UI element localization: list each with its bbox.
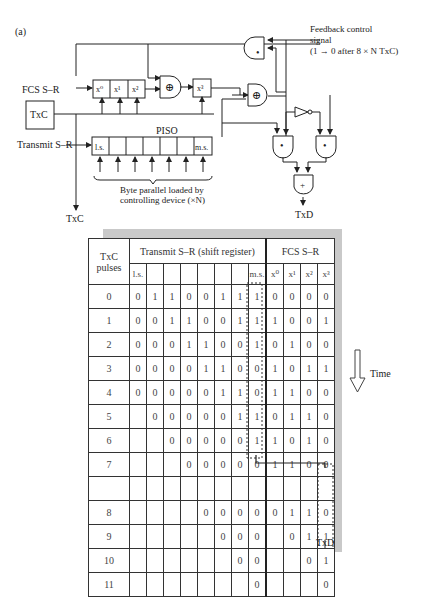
xor-gate-1: ⊕ (165, 81, 174, 93)
transmit-cell: 0 (215, 501, 232, 525)
and-gate-left: • (280, 140, 284, 151)
transmit-cell (147, 573, 164, 597)
fcs-cell (266, 477, 284, 501)
transmit-cell: 0 (198, 501, 215, 525)
pulse-cell: 3 (89, 357, 130, 381)
transmit-cell: 0 (249, 573, 267, 597)
transmit-cell (130, 453, 147, 477)
fcs-cell: 0 (301, 285, 318, 309)
table-row: 1001100111001 (89, 309, 335, 333)
transmit-cell: 0 (249, 381, 267, 405)
table-row: 4000001101100 (89, 381, 335, 405)
transmit-cell (147, 525, 164, 549)
brace (94, 176, 212, 184)
transmit-cell (164, 573, 181, 597)
transmit-cell (164, 477, 181, 501)
transmit-cell: 1 (232, 381, 249, 405)
transmit-cell (130, 525, 147, 549)
fcs-cell (284, 549, 301, 573)
brace-label-2: controlling device (×N) (120, 195, 205, 205)
transmit-cell: 1 (249, 309, 267, 333)
transmit-cell: 0 (181, 381, 198, 405)
transmit-cell (130, 501, 147, 525)
transmit-cell: 0 (249, 357, 267, 381)
transmit-cell (147, 477, 164, 501)
transmit-cell: 0 (130, 285, 147, 309)
table-row: 1100 (89, 573, 335, 597)
pulse-cell: 9 (89, 525, 130, 549)
transmit-cell: 0 (232, 549, 249, 573)
transmit-cell (164, 501, 181, 525)
fcs-cell: 0 (284, 357, 301, 381)
fcs-cell: 0 (318, 429, 335, 453)
table-row: 2000110010100 (89, 333, 335, 357)
transmit-sub-header (232, 264, 249, 285)
fcs-cell (284, 477, 301, 501)
transmit-cell: 0 (198, 429, 215, 453)
fcs-cell (266, 525, 284, 549)
transmit-cell (232, 573, 249, 597)
transmit-cell (130, 405, 147, 429)
transmit-cell: 0 (164, 381, 181, 405)
transmit-cell (164, 549, 181, 573)
transmit-cell: 0 (181, 405, 198, 429)
transmit-cell: 0 (147, 309, 164, 333)
transmit-cell (181, 477, 198, 501)
transmit-cell: 0 (164, 357, 181, 381)
transmit-cell: 0 (215, 405, 232, 429)
pulse-cell: 7 (89, 453, 130, 477)
fcs-cell: 1 (318, 357, 335, 381)
transmit-cell (198, 549, 215, 573)
transmit-sub-header (164, 264, 181, 285)
time-label: Time (370, 368, 391, 379)
transmit-cell: 1 (215, 381, 232, 405)
transmit-cell: 1 (147, 285, 164, 309)
fcs-cell: 0 (301, 453, 318, 477)
feedback-wire (76, 44, 148, 78)
table-row (89, 477, 335, 501)
table-row: 3000011001011 (89, 357, 335, 381)
transmit-cell (130, 549, 147, 573)
transmit-cell: 0 (181, 357, 198, 381)
fcs-cell (301, 477, 318, 501)
transmit-cell: 0 (232, 357, 249, 381)
transmit-cell: 0 (232, 501, 249, 525)
fcs-cell: 1 (284, 501, 301, 525)
shift-register-table: TxCpulsesTransmit S–R (shift register)FC… (88, 238, 335, 597)
fcs-cell (266, 573, 284, 597)
fcs-cell: 1 (266, 381, 284, 405)
transmit-sub-header: l.s. (130, 264, 147, 285)
transmit-cell: 1 (249, 285, 267, 309)
fcs-cell: 1 (266, 453, 284, 477)
transmit-cell: 0 (198, 405, 215, 429)
fcs-cell: 0 (318, 285, 335, 309)
fcs-cell: 1 (318, 549, 335, 573)
fcs-cell: 1 (301, 501, 318, 525)
fcs-sub-header: x⁰ (266, 264, 284, 285)
fcs-cell: 0 (301, 309, 318, 333)
transmit-cell: 1 (181, 333, 198, 357)
fcs-cell: 0 (318, 573, 335, 597)
feedback-label-2: signal (310, 35, 332, 45)
fcs-cell: 0 (301, 333, 318, 357)
fcs-cell: 1 (284, 453, 301, 477)
circuit-diagram: (a) FCS S–R x⁰ x¹ x² x³ ⊕ ⊕ • • • + TxC … (0, 0, 421, 236)
table-row: 500000110110 (89, 405, 335, 429)
transmit-cell (249, 477, 267, 501)
xor-gate-2: ⊕ (252, 89, 261, 101)
fcs-cell: 1 (284, 333, 301, 357)
table-row: 60000011010 (89, 429, 335, 453)
transmit-cell: 0 (164, 333, 181, 357)
transmit-cell: 0 (232, 525, 249, 549)
fcs-cell (318, 477, 335, 501)
transmit-cell: 0 (198, 453, 215, 477)
fcs-cell: 0 (266, 501, 284, 525)
figure-label: (a) (15, 26, 26, 38)
transmit-cell: 0 (181, 453, 198, 477)
table-row: 0011001110000 (89, 285, 335, 309)
transmit-cell (198, 477, 215, 501)
pulse-cell: 1 (89, 309, 130, 333)
transmit-cell: 0 (215, 309, 232, 333)
transmit-cell (164, 453, 181, 477)
transmit-cell: 1 (198, 333, 215, 357)
